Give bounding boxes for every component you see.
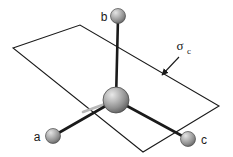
atom-sphere-central (103, 87, 129, 113)
mirror-plane-label-sigma: σ (176, 38, 183, 53)
atom-label-b: b (101, 10, 108, 24)
atom-sphere-a (46, 129, 61, 144)
figure-canvas: b a c σ c (0, 0, 233, 157)
sigma-c-arrow (162, 57, 179, 75)
mirror-plane-label-subscript: c (187, 46, 191, 56)
atom-sphere-b (111, 9, 126, 24)
atom-sphere-c (181, 132, 196, 147)
atom-label-a: a (34, 130, 41, 144)
atom-label-c: c (201, 133, 207, 147)
symmetry-diagram-svg: b a c σ c (0, 0, 233, 157)
